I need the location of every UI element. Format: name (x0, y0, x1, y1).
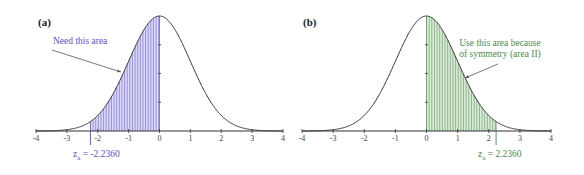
x-tick-label: 4 (549, 134, 553, 143)
x-tick-label: -1 (125, 134, 132, 143)
arrow-head-icon (117, 69, 121, 72)
panel-label: (a) (38, 16, 51, 29)
x-tick-label: 3 (518, 134, 522, 143)
annotation-arrow (465, 64, 498, 78)
z-value-label: za = 2.2360 (478, 149, 522, 162)
figure: -4-3-2-101234(a)Need this areaza = -2.23… (0, 0, 584, 175)
x-tick-label: -3 (64, 134, 71, 143)
panel-a: -4-3-2-101234(a)Need this areaza = -2.23… (33, 16, 285, 162)
x-tick-label: 2 (487, 134, 491, 143)
x-tick-label: -1 (392, 134, 399, 143)
x-tick-label: -2 (94, 134, 101, 143)
z-value-label: za = -2.2360 (73, 149, 120, 162)
annotation-text: Use this area because (459, 38, 541, 48)
x-tick-label: -4 (33, 134, 40, 143)
x-tick-label: -3 (330, 134, 337, 143)
x-tick-label: 1 (188, 134, 192, 143)
panel-label: (b) (303, 16, 317, 29)
x-tick-label: 4 (281, 134, 285, 143)
annotation-arrow (52, 50, 121, 72)
x-tick-label: -2 (361, 134, 368, 143)
x-tick-label: 0 (425, 134, 429, 143)
panel-b: -4-3-2-101234(b)Use this area becauseof … (299, 16, 553, 162)
x-tick-label: 3 (250, 134, 254, 143)
x-tick-label: 0 (158, 134, 162, 143)
x-tick-label: 1 (456, 134, 460, 143)
annotation-text: of symmetry (area II) (459, 49, 541, 60)
annotation-text: Need this area (53, 36, 108, 46)
x-tick-label: -4 (299, 134, 306, 143)
x-tick-label: 2 (219, 134, 223, 143)
